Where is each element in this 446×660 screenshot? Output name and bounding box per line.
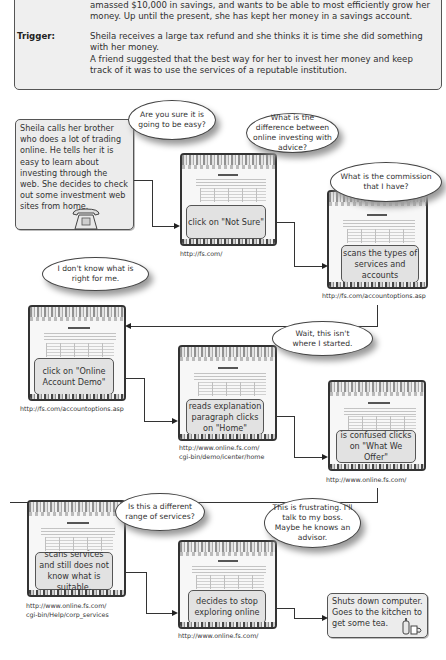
- trigger-text: Sheila receives a large tax refund and s…: [90, 31, 423, 76]
- screenshot-thumbnail-6: scans services and still does not know w…: [27, 500, 126, 597]
- step-action-1: click on "Not Sure": [186, 205, 266, 239]
- trigger-label: Trigger:: [17, 31, 55, 41]
- step-url-6: http://www.online.fs.com/ cgi-bin/Help/c…: [26, 602, 109, 619]
- telephone-icon: [70, 208, 102, 230]
- screenshot-thumbnail-2: scans the types of services and accounts: [327, 190, 428, 289]
- step-url-3: http://fs.com/accountoptions.asp: [20, 405, 124, 414]
- teapot-cup-icon: [400, 617, 422, 635]
- bubble-text: What is the difference between online in…: [253, 113, 332, 153]
- step-action-2: scans the types of services and accounts: [341, 245, 419, 283]
- step-url-line: cgi-bin/demo/icenter/home: [179, 453, 264, 462]
- step-url-4: http://www.online.fs.com/ cgi-bin/demo/i…: [179, 444, 264, 461]
- screenshot-thumbnail-1: click on "Not Sure": [180, 153, 277, 246]
- thought-bubble-difference: What is the difference between online in…: [246, 113, 339, 153]
- persona-intro: amassed $10,000 in savings, and wants to…: [90, 0, 430, 23]
- bubble-text: Are you sure it is going to be easy?: [137, 110, 207, 130]
- bubble-text: Wait, this isn't where I started.: [283, 329, 362, 349]
- bubble-text: Is this a different range of services?: [122, 502, 198, 522]
- bubble-text: This is frustrating. I'll talk to my bos…: [269, 503, 356, 543]
- trigger-line: track of it was to use the services of a…: [90, 65, 423, 76]
- thought-bubble-easy: Are you sure it is going to be easy?: [128, 100, 216, 140]
- step-action-4: reads explanation paragraph clicks on "H…: [186, 399, 264, 435]
- screenshot-thumbnail-7: decides to stop exploring online: [178, 540, 277, 629]
- trigger-line: A friend suggested that the best way for…: [90, 54, 423, 65]
- bubble-text: What is the commission that I have?: [339, 172, 433, 192]
- thought-bubble-different-range: Is this a different range of services?: [115, 493, 205, 531]
- screenshot-thumbnail-3: click on "Online Account Demo": [28, 305, 126, 401]
- step-url-2: http://fs.com/accountoptions.asp: [322, 292, 426, 301]
- step-url-5: http://www.online.fs.com/: [326, 476, 406, 485]
- screenshot-thumbnail-4: reads explanation paragraph clicks on "H…: [178, 345, 277, 441]
- step-url-7: http://www.online.fs.com/: [178, 632, 258, 641]
- persona-intro-line: amassed $10,000 in savings, and wants to…: [90, 0, 430, 11]
- thought-bubble-frustrating: This is frustrating. I'll talk to my bos…: [264, 498, 361, 548]
- step-action-5: is confused clicks on "What We Offer": [336, 430, 416, 463]
- persona-intro-line: money. Up until the present, she has kep…: [90, 11, 430, 22]
- step-action-3: click on "Online Account Demo": [34, 358, 114, 395]
- thought-bubble-commission: What is the commission that I have?: [330, 162, 442, 202]
- bubble-text: I don't know what is right for me.: [53, 264, 138, 284]
- trigger-line: with her money.: [90, 42, 423, 53]
- step-action-6: scans services and still does not know w…: [35, 552, 113, 590]
- step-url-line: cgi-bin/Help/corp_services: [26, 611, 109, 620]
- persona-box: amassed $10,000 in savings, and wants to…: [14, 0, 442, 90]
- screenshot-thumbnail-5: is confused clicks on "What We Offer": [328, 380, 426, 471]
- thought-bubble-wait: Wait, this isn't where I started.: [272, 321, 373, 356]
- start-scenario-text: Sheila calls her brother who does a lot …: [20, 123, 129, 213]
- step-url-1: http://fs.com/: [180, 250, 222, 259]
- step-url-line: http://www.online.fs.com/: [26, 602, 109, 611]
- thought-bubble-dont-know: I don't know what is right for me.: [42, 257, 149, 291]
- trigger-line: Sheila receives a large tax refund and s…: [90, 31, 423, 42]
- step-url-line: http://www.online.fs.com/: [179, 444, 264, 453]
- step-action-7: decides to stop exploring online: [188, 590, 266, 624]
